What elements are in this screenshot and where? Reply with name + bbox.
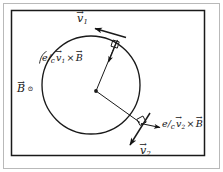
velocity-1-vector: →v [77, 13, 83, 24]
force-2-velocity-vector: →v [176, 119, 181, 129]
magnetic-field-vector: →B [17, 83, 25, 94]
magnetic-field-label: →B⊙ [17, 83, 33, 94]
vector-arrow-icon: → [55, 48, 62, 56]
velocity-2-vector: →v [140, 145, 146, 156]
velocity-1-subscript: 1 [84, 18, 88, 26]
force-2-arrow [141, 124, 160, 128]
vector-arrow-icon: → [139, 140, 147, 149]
velocity-1-label: →v1 [77, 13, 88, 26]
force-1-velocity-vector: →v [56, 53, 61, 63]
vector-arrow-icon: → [76, 8, 84, 17]
force-2-velocity-subscript: 2 [182, 124, 186, 130]
force-1-label: e/c →v1×→B [42, 53, 83, 65]
vector-arrow-icon: → [196, 114, 203, 122]
velocity-2-subscript: 2 [147, 150, 151, 158]
vector-arrow-icon: → [175, 114, 182, 122]
cross-product-icon: × [67, 52, 75, 63]
force-1-velocity-subscript: 1 [62, 58, 66, 64]
outer-frame [4, 4, 220, 169]
vector-arrow-icon: → [17, 78, 25, 87]
force-2-field-vector: →B [196, 119, 203, 129]
force-2-label: e/c →v2×→B [162, 119, 203, 131]
velocity-2-label: →v2 [140, 145, 151, 158]
out-of-page-icon: ⊙ [28, 85, 34, 93]
figure-canvas: →v1 →v2 →B⊙ e/c →v1×→B e/c →v2×→B [0, 0, 223, 172]
center-dot [94, 89, 98, 93]
force-1-arrow [109, 40, 118, 62]
vector-arrow-icon: → [76, 48, 83, 56]
cross-product-icon: × [187, 118, 195, 129]
force-1-field-vector: →B [76, 53, 83, 63]
radius-line-2 [96, 91, 140, 123]
